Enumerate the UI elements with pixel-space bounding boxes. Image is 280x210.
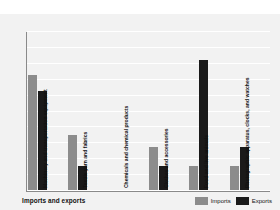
bar-group: Clothes and accessories	[149, 32, 189, 190]
chart-legend: Imports Exports	[195, 197, 272, 205]
legend-label-imports: Imports	[211, 198, 231, 204]
bar-group: Machinery and transportation equipment	[28, 32, 68, 190]
category-label: Chemicals and chemical products	[124, 106, 129, 188]
chart-figure: Percentage of total 0481216202428323640 …	[0, 14, 280, 210]
legend-swatch-exports	[236, 197, 249, 205]
bar-group: Chemicals and chemical products	[109, 32, 149, 190]
bar-group: Textile yarn and fabrics	[68, 32, 108, 190]
legend-item-exports: Exports	[236, 197, 272, 205]
chart-title: Imports and exports	[22, 197, 85, 204]
bar-groups: Machinery and transportation equipmentTe…	[28, 32, 270, 190]
category-label: Machinery and transportation equipment	[43, 89, 48, 188]
bar-imports	[189, 166, 198, 190]
legend-item-imports: Imports	[195, 197, 231, 205]
chart-footer: Imports and exports Imports Exports	[0, 188, 280, 210]
bar-imports	[28, 75, 37, 190]
plot-wrapper: Percentage of total 0481216202428323640 …	[26, 32, 270, 192]
bar-imports	[149, 147, 158, 190]
category-label: Textile yarn and fabrics	[83, 131, 88, 188]
legend-swatch-imports	[195, 197, 208, 205]
bar-imports	[230, 166, 239, 190]
bar-group: Food and live animals	[189, 32, 229, 190]
category-label: Food and live animals	[204, 135, 209, 188]
legend-label-exports: Exports	[252, 198, 272, 204]
bar-imports	[68, 135, 77, 190]
category-label: Clothes and accessories	[164, 128, 169, 188]
plot-area: 0481216202428323640 Machinery and transp…	[26, 32, 270, 192]
category-label: Photographic apparatus, clocks, and watc…	[245, 77, 250, 188]
bar-group: Photographic apparatus, clocks, and watc…	[230, 32, 270, 190]
